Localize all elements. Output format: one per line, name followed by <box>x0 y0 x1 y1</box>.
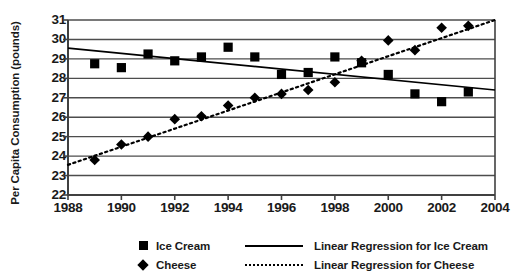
square-marker-icon <box>130 241 156 250</box>
data-point-cheese-1995 <box>250 92 261 103</box>
data-point-ice-cream-1998 <box>330 52 339 61</box>
legend-item-ice-cream: Ice Cream Linear Regression for Ice Crea… <box>130 236 488 255</box>
legend-item-cheese: Cheese Linear Regression for Cheese <box>130 255 488 274</box>
trendline-ice-cream <box>68 48 495 90</box>
data-point-ice-cream-1994 <box>224 43 233 52</box>
legend-label-cheese-regression: Linear Regression for Cheese <box>314 259 474 271</box>
data-point-ice-cream-1996 <box>277 70 286 79</box>
data-point-ice-cream-1991 <box>143 49 152 58</box>
data-point-cheese-1997 <box>303 85 314 96</box>
chart-container: Per Capita Consumption (pounds) 22232425… <box>0 0 528 279</box>
data-point-ice-cream-1993 <box>197 52 206 61</box>
legend-label-ice-cream-regression: Linear Regression for Ice Cream <box>314 240 488 252</box>
diamond-marker-icon <box>130 261 156 269</box>
data-point-ice-cream-2003 <box>464 87 473 96</box>
data-point-ice-cream-1997 <box>304 68 313 77</box>
data-point-ice-cream-2002 <box>437 97 446 106</box>
data-point-ice-cream-1990 <box>117 63 126 72</box>
chart-legend: Ice Cream Linear Regression for Ice Crea… <box>130 236 488 274</box>
data-point-ice-cream-1989 <box>90 59 99 68</box>
legend-label-cheese: Cheese <box>156 259 234 271</box>
solid-line-icon <box>234 245 314 247</box>
data-point-cheese-2003 <box>463 21 474 32</box>
data-point-ice-cream-2001 <box>410 89 419 98</box>
data-point-cheese-1992 <box>169 114 180 125</box>
data-point-cheese-2000 <box>383 35 394 46</box>
data-point-cheese-2002 <box>436 22 447 33</box>
data-point-cheese-1991 <box>143 131 154 142</box>
dotted-line-icon <box>234 264 314 266</box>
data-point-ice-cream-1995 <box>250 52 259 61</box>
data-point-ice-cream-1992 <box>170 56 179 65</box>
legend-label-ice-cream: Ice Cream <box>156 240 234 252</box>
data-point-ice-cream-2000 <box>384 70 393 79</box>
